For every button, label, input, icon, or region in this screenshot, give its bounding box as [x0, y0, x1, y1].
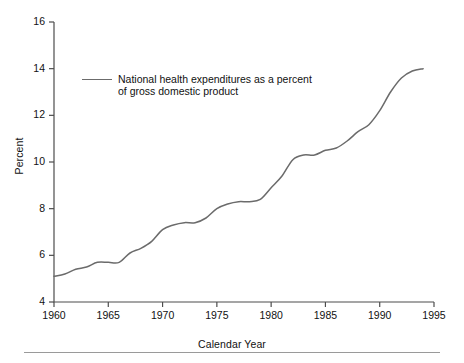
x-tick-label: 1960 — [31, 309, 77, 321]
chart-legend: National health expenditures as a percen… — [82, 73, 382, 97]
footer-divider — [24, 352, 440, 353]
legend-label: National health expenditures as a percen… — [112, 73, 312, 97]
x-tick-label: 1985 — [302, 309, 348, 321]
y-tick-label: 16 — [19, 15, 45, 27]
y-tick-label: 8 — [19, 202, 45, 214]
y-tick-label: 6 — [19, 248, 45, 260]
x-tick-label: 1965 — [85, 309, 131, 321]
y-tick-label: 12 — [19, 108, 45, 120]
x-tick-label: 1990 — [357, 309, 403, 321]
x-tick-label: 1980 — [248, 309, 294, 321]
x-tick-label: 1975 — [194, 309, 240, 321]
y-tick-label: 10 — [19, 155, 45, 167]
x-axis-title: Calendar Year — [0, 338, 464, 350]
y-tick-label: 4 — [19, 295, 45, 307]
y-tick-label: 14 — [19, 62, 45, 74]
legend-line-swatch — [82, 73, 112, 86]
x-tick-label: 1995 — [411, 309, 457, 321]
x-tick-label: 1970 — [140, 309, 186, 321]
